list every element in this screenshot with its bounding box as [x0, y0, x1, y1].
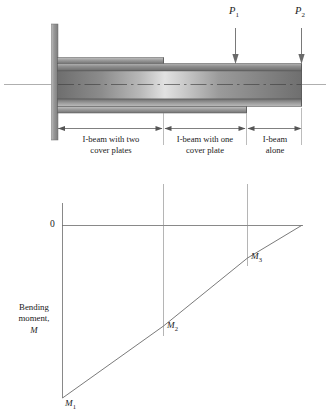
load-label-p1: P1 [229, 5, 239, 20]
load-label-p2: P2 [295, 5, 305, 20]
dimension-label-line1: I-beam [249, 134, 301, 145]
load-arrow-p1 [232, 28, 238, 64]
bending-moment-chart [62, 184, 303, 398]
dimension-label-line2: cover plate [161, 145, 249, 156]
dimension-label-line2: alone [249, 145, 301, 156]
top-cover-plate [58, 58, 164, 64]
dimension-label-line2: cover plates [63, 145, 159, 156]
ibeam-bottom-flange [58, 99, 302, 107]
figure-canvas [0, 0, 328, 415]
ibeam-top-flange [58, 64, 302, 72]
engineering-figure: P1 P2 I-beam with two cover plates I-bea… [0, 0, 328, 415]
chart-y-axis-label: Bending moment, M [10, 302, 58, 336]
dimension-label-two-cover-plates: I-beam with two cover plates [63, 134, 159, 156]
dimension-label-beam-alone: I-beam alone [249, 134, 301, 156]
moment-curve [63, 226, 302, 399]
load-arrow-p2 [298, 28, 304, 64]
moment-label-m1: M1 [65, 398, 76, 410]
y-axis-label-line3: M [10, 325, 58, 336]
moment-label-m3: M3 [251, 251, 262, 263]
dimension-label-line1: I-beam with two [63, 134, 159, 145]
moment-label-m2: M2 [167, 320, 178, 332]
chart-zero-label: 0 [50, 219, 55, 230]
dimension-label-one-cover-plate: I-beam with one cover plate [161, 134, 249, 156]
ibeam-web [58, 71, 302, 99]
y-axis-label-line1: Bending [10, 302, 58, 313]
fixed-support-wall [52, 24, 59, 140]
y-axis-label-line2: moment, [10, 313, 58, 324]
bottom-cover-plate [58, 107, 247, 114]
dimension-label-line1: I-beam with one [161, 134, 249, 145]
